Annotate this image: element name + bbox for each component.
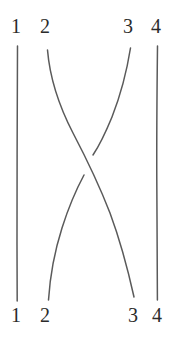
top-label-2: 2 (37, 16, 53, 36)
strand-3-upper-path (93, 48, 131, 155)
braid-canvas (0, 0, 182, 338)
strand-4-path (157, 46, 158, 300)
strand-3-lower-path (49, 175, 85, 300)
strand-1-path (17, 46, 18, 301)
bottom-label-3: 3 (125, 305, 141, 325)
braid-diagram-figure: 1 2 3 4 1 2 3 4 (0, 0, 182, 338)
bottom-label-2: 2 (37, 305, 53, 325)
top-label-3: 3 (120, 16, 136, 36)
bottom-label-1: 1 (8, 305, 24, 325)
top-label-4: 4 (148, 16, 164, 36)
top-label-1: 1 (8, 16, 24, 36)
strand-2-path (48, 50, 135, 297)
bottom-label-4: 4 (149, 305, 165, 325)
